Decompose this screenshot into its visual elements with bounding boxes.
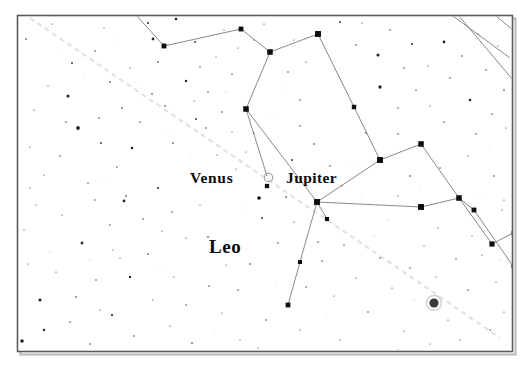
field-star [38,298,41,301]
field-star [235,168,236,169]
field-star [99,309,100,310]
field-star [129,67,130,68]
field-star [341,185,342,186]
field-star [223,29,224,30]
field-star [43,329,45,331]
field-star [467,155,468,156]
field-star [253,39,254,40]
venus-label: Venus [190,169,233,186]
faint-star [352,160,353,161]
field-star [491,113,492,114]
field-star [447,319,448,320]
field-star [95,279,96,280]
field-star [305,286,306,287]
faint-star [480,196,481,197]
field-star [27,263,28,264]
field-star [435,276,436,277]
field-star [249,263,251,265]
field-star [231,73,232,74]
field-star [129,276,131,278]
field-star [505,127,506,128]
field-star [81,242,84,245]
field-star [29,187,30,188]
field-star [477,33,478,34]
field-star [147,22,149,24]
field-star [343,244,344,245]
field-star [164,105,166,107]
field-star [103,27,104,28]
bright-star [243,106,249,112]
field-star [459,339,460,340]
field-star [239,339,240,340]
planet-marker-icon [429,298,438,307]
faint-star [50,252,51,253]
field-star [29,146,30,147]
field-star [503,199,504,200]
bright-star [352,105,356,109]
field-star [43,174,44,175]
field-star [231,131,232,132]
field-star [397,195,398,196]
field-star [35,204,36,205]
chart-frame-border [18,16,513,352]
faint-star [500,260,501,261]
field-star [33,109,34,110]
field-star [467,289,468,290]
bright-star [377,157,383,163]
field-star [194,41,196,43]
field-star [109,224,110,225]
bright-star [239,27,244,32]
field-star [378,85,381,88]
faint-star [244,208,245,209]
field-star [76,126,80,130]
field-star [191,342,193,344]
field-star [495,281,496,282]
bright-star [456,195,462,201]
field-star [173,276,174,277]
field-star [157,61,159,63]
field-star [47,85,48,86]
field-star [367,311,368,312]
field-star [25,38,27,40]
faint-star [452,180,453,181]
field-star [429,105,430,106]
field-star [265,319,266,320]
field-star [493,175,494,176]
field-star [355,44,356,45]
faint-star [272,118,273,119]
field-star [398,350,399,351]
field-star [205,127,206,128]
field-star [131,147,134,150]
field-star [443,121,444,122]
field-star [291,159,293,161]
faint-star [168,128,169,129]
faint-star [190,155,191,156]
faint-star [104,178,105,179]
field-star [216,154,217,155]
bright-star [489,241,494,246]
field-star [89,343,90,344]
field-star [258,348,259,349]
leo-constellation-label: Leo [209,236,241,257]
field-star [125,195,127,197]
field-star [321,260,322,261]
field-star [455,258,456,259]
field-star [489,329,490,330]
field-star [152,38,155,41]
field-star [469,99,472,102]
field-star [391,287,392,288]
bright-star [257,196,261,200]
faint-star [388,220,389,221]
bright-star [472,208,477,213]
field-star [397,107,398,108]
field-star [471,235,472,236]
field-star [94,199,95,200]
faint-star [490,150,491,151]
field-star [449,77,450,78]
field-star [389,29,390,30]
field-star [409,267,410,268]
field-star [361,22,362,23]
field-star [121,107,123,109]
field-star [339,21,341,23]
field-star [427,65,428,66]
